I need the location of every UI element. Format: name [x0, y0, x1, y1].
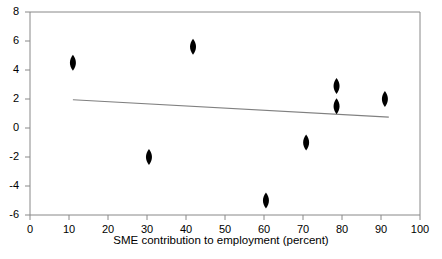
y-axis-tick-label: 2 — [0, 93, 19, 104]
data-point-marker — [303, 135, 309, 151]
data-point-marker — [190, 39, 196, 55]
y-axis-tick-label: 8 — [0, 6, 19, 17]
data-point-marker — [334, 78, 340, 94]
data-point-marker — [334, 98, 340, 114]
data-points — [70, 39, 388, 209]
trendline-segment — [73, 100, 389, 117]
y-axis-tick-label: -6 — [0, 209, 19, 220]
plot-area — [0, 0, 442, 259]
y-axis-tick-label: -2 — [0, 151, 19, 162]
y-axis-tick-label: 4 — [0, 64, 19, 75]
data-point-marker — [382, 91, 388, 107]
data-point-marker — [70, 55, 76, 71]
x-axis-ticks — [30, 215, 420, 220]
y-axis-ticks — [25, 12, 30, 215]
y-axis-tick-label: -4 — [0, 180, 19, 191]
x-axis-title: SME contribution to employment (percent) — [0, 234, 442, 246]
axes — [30, 12, 420, 215]
y-axis-tick-label: 6 — [0, 35, 19, 46]
y-axis-tick-label: 0 — [0, 122, 19, 133]
scatter-chart: -6-4-202468 0102030405060708090100 SME c… — [0, 0, 442, 259]
data-point-marker — [146, 149, 152, 165]
data-point-marker — [263, 193, 269, 209]
trendline — [73, 100, 389, 117]
